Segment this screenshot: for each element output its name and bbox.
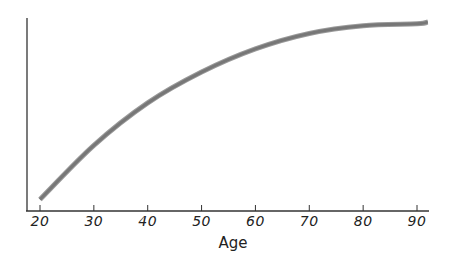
x-tick-label: 60 <box>246 213 265 229</box>
x-tick-label: 70 <box>300 213 319 229</box>
curve-line <box>40 22 428 200</box>
x-ticks <box>40 205 417 211</box>
x-tick-label: 40 <box>138 213 157 229</box>
chart-canvas <box>0 0 449 269</box>
x-tick-label: 50 <box>192 213 211 229</box>
x-axis-label: Age <box>218 234 247 252</box>
x-tick-label: 20 <box>31 213 50 229</box>
x-tick-label: 30 <box>84 213 103 229</box>
x-tick-label: 90 <box>408 213 427 229</box>
x-tick-label: 80 <box>354 213 373 229</box>
curve-line-shadow <box>40 22 428 200</box>
